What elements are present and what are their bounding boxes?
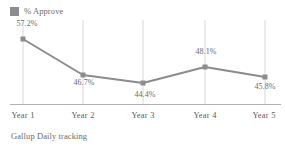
category-label-year-5: Year 5 [252, 110, 275, 121]
data-label-year-1: 57.2% [16, 19, 37, 28]
source-note: Gallup Daily tracking [11, 131, 87, 142]
category-label-year-3: Year 3 [131, 110, 154, 121]
data-label-year-4: 48.1% [195, 47, 216, 56]
data-label-year-5: 45.8% [254, 82, 275, 91]
data-label-year-2: 46.7% [73, 78, 94, 87]
series-markers [21, 37, 268, 86]
legend-label: % Approve [24, 7, 63, 16]
category-label-year-1: Year 1 [11, 110, 34, 121]
category-label-year-4: Year 4 [193, 110, 216, 121]
approval-line-chart: % Approve [0, 0, 285, 152]
data-label-year-3: 44.4% [134, 90, 155, 99]
series-line-approve [23, 39, 265, 83]
category-label-year-2: Year 2 [71, 110, 94, 121]
legend-swatch-icon [10, 7, 19, 16]
category-axis: Year 1 Year 2 Year 3 Year 4 Year 5 [0, 110, 285, 124]
chart-legend: % Approve [10, 5, 63, 17]
plot-area: 57.2% 46.7% 44.4% 48.1% 45.8% [0, 20, 285, 106]
